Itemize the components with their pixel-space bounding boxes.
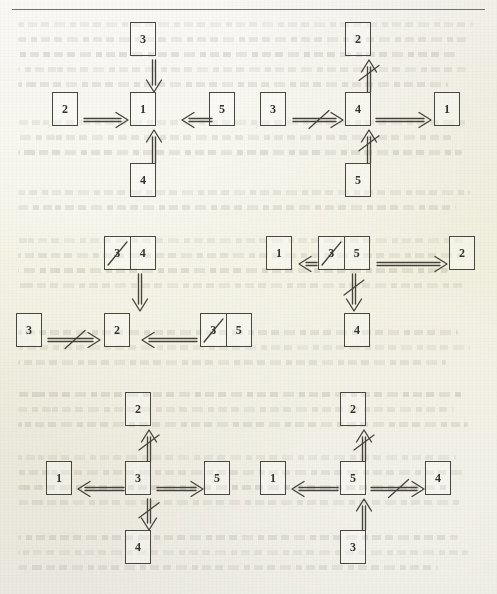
group-middle-right-arrow-center-to-2-double-arrow-right-icon bbox=[375, 253, 449, 275]
group-bottom-left-box-bottom: 4 bbox=[125, 530, 151, 564]
box-label: 1 bbox=[56, 472, 62, 484]
box-label: 1 bbox=[270, 472, 276, 484]
group-top-left-arrow-4-to-1-double-arrow-up-icon bbox=[143, 128, 165, 165]
group-top-left-box-bottom: 4 bbox=[130, 163, 156, 197]
group-bottom-right-arrow-5-to-4-negated-double-arrow-right-icon bbox=[369, 478, 426, 500]
struck-digit-cell: 3 bbox=[319, 237, 345, 269]
group-bottom-left-box-left: 1 bbox=[46, 461, 72, 495]
box-label: 5 bbox=[355, 174, 361, 186]
box-label: 5 bbox=[219, 103, 225, 115]
box-label: 4 bbox=[435, 472, 441, 484]
group-middle-right-arrow-center-to-4-negated-double-arrow-down-icon bbox=[343, 272, 365, 313]
group-bottom-left-box-right: 5 bbox=[204, 461, 230, 495]
group-bottom-left-arrow-3-to-5-double-arrow-right-icon bbox=[155, 478, 205, 500]
group-bottom-left-arrow-3-to-4-negated-double-arrow-down-icon bbox=[138, 497, 160, 532]
group-top-left-arrow-3-to-1-double-arrow-down-icon bbox=[143, 58, 165, 94]
strikethrough-slash-icon bbox=[321, 241, 342, 266]
box-label: 4 bbox=[135, 541, 141, 553]
group-top-right-box-right: 1 bbox=[434, 92, 460, 126]
group-middle-left-arrow-top-to-2-double-arrow-down-icon bbox=[129, 272, 151, 313]
group-top-right-box-bottom: 5 bbox=[345, 163, 371, 197]
struck-digit-label: 3 bbox=[328, 247, 334, 259]
box-label: 1 bbox=[276, 247, 282, 259]
group-bottom-left-arrow-3-to-2-negated-double-arrow-up-icon bbox=[138, 428, 160, 463]
box-label: 2 bbox=[135, 403, 141, 415]
group-bottom-right-box-bottom: 3 bbox=[340, 530, 366, 564]
group-top-right-arrow-4-to-1-double-arrow-right-icon bbox=[374, 109, 433, 131]
group-top-left-arrow-2-to-1-double-arrow-right-icon bbox=[82, 109, 130, 131]
group-top-right-box-left: 3 bbox=[260, 92, 286, 126]
group-middle-right-box-bottom: 4 bbox=[344, 313, 370, 347]
group-middle-left-arrow-3-to-2-negated-double-arrow-right-icon bbox=[46, 329, 102, 351]
strikethrough-slash-icon bbox=[203, 318, 224, 343]
box-label: 4 bbox=[355, 103, 361, 115]
group-bottom-right-box-top: 2 bbox=[340, 392, 366, 426]
implication-diagram-figure: 3215423415343235135242135421543 bbox=[0, 0, 497, 594]
box-label: 3 bbox=[140, 33, 146, 45]
group-middle-left-box-center: 2 bbox=[104, 313, 130, 347]
struck-digit-cell: 3 bbox=[105, 237, 131, 269]
group-top-left-box-center: 1 bbox=[130, 92, 156, 126]
box-label: 4 bbox=[354, 324, 360, 336]
group-middle-left-box-left: 3 bbox=[16, 313, 42, 347]
digit-cell: 5 bbox=[345, 237, 370, 269]
box-label: 2 bbox=[350, 403, 356, 415]
struck-digit-label: 3 bbox=[114, 247, 120, 259]
box-label: 2 bbox=[114, 324, 120, 336]
group-middle-left-arrow-right-to-2-double-arrow-left-icon bbox=[140, 329, 199, 351]
struck-digit-label: 3 bbox=[210, 324, 216, 336]
group-bottom-right-box-right: 4 bbox=[425, 461, 451, 495]
group-bottom-left-box-center: 3 bbox=[125, 461, 151, 495]
box-label: 2 bbox=[459, 247, 465, 259]
box-label: 5 bbox=[354, 247, 360, 259]
digit-cell: 5 bbox=[227, 314, 252, 346]
group-top-right-box-center: 4 bbox=[345, 92, 371, 126]
box-label: 5 bbox=[350, 472, 356, 484]
box-label: 3 bbox=[135, 472, 141, 484]
group-bottom-left-box-top: 2 bbox=[125, 392, 151, 426]
digit-cell: 4 bbox=[131, 237, 156, 269]
strikethrough-slash-icon bbox=[107, 241, 128, 266]
box-label: 2 bbox=[355, 33, 361, 45]
box-label: 2 bbox=[62, 103, 68, 115]
group-bottom-right-arrow-5-to-1-double-arrow-left-icon bbox=[290, 478, 340, 500]
box-label: 3 bbox=[270, 103, 276, 115]
group-top-right-arrow-3-to-4-negated-double-arrow-right-icon bbox=[291, 109, 345, 131]
box-label: 1 bbox=[444, 103, 450, 115]
box-label: 5 bbox=[214, 472, 220, 484]
group-middle-right-arrow-center-to-1-double-arrow-left-icon bbox=[297, 253, 319, 275]
group-top-left-box-top: 3 bbox=[130, 22, 156, 56]
group-top-right-arrow-5-to-4-negated-double-arrow-up-icon bbox=[358, 128, 380, 165]
group-middle-left-box-top: 34 bbox=[104, 236, 156, 270]
group-bottom-right-box-left: 1 bbox=[260, 461, 286, 495]
group-middle-right-box-center: 35 bbox=[318, 236, 370, 270]
struck-digit-cell: 3 bbox=[201, 314, 227, 346]
group-top-left-arrow-5-to-1-double-arrow-left-icon bbox=[180, 109, 214, 131]
group-bottom-right-arrow-5-to-2-negated-double-arrow-up-icon bbox=[353, 428, 375, 463]
box-label: 1 bbox=[140, 103, 146, 115]
group-top-left-box-left: 2 bbox=[52, 92, 78, 126]
box-label: 4 bbox=[140, 247, 146, 259]
group-bottom-left-arrow-3-to-1-double-arrow-left-icon bbox=[76, 478, 126, 500]
box-label: 3 bbox=[350, 541, 356, 553]
group-top-right-arrow-4-to-2-negated-double-arrow-up-icon bbox=[358, 58, 380, 94]
group-middle-left-box-right: 35 bbox=[200, 313, 252, 347]
box-label: 5 bbox=[236, 324, 242, 336]
group-middle-right-box-right: 2 bbox=[449, 236, 475, 270]
box-label: 4 bbox=[140, 174, 146, 186]
group-bottom-right-arrow-3-to-5-double-arrow-up-icon bbox=[353, 497, 375, 532]
group-bottom-right-box-center: 5 bbox=[340, 461, 366, 495]
group-top-right-box-top: 2 bbox=[345, 22, 371, 56]
group-middle-right-box-left: 1 bbox=[266, 236, 292, 270]
box-label: 3 bbox=[26, 324, 32, 336]
